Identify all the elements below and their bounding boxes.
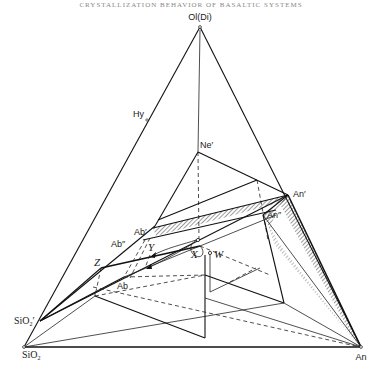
- label-x: X: [190, 248, 199, 260]
- label-sio2: SiO2: [22, 349, 41, 361]
- label-ne-prime: Ne′: [200, 140, 214, 150]
- label-ab-prime: Ab′: [134, 227, 147, 237]
- label-z: Z: [94, 256, 101, 268]
- label-an: An: [355, 352, 366, 362]
- label-ab-double-prime: Ab″: [111, 239, 126, 249]
- label-hy: Hy: [133, 109, 144, 119]
- label-ol-di: Ol(Di): [188, 12, 212, 22]
- outer-triangle: [24, 27, 361, 347]
- label-an-double-prime: An″: [267, 210, 282, 220]
- labels: Ol(Di) Hy Ne′ An′ An″ Ab′ Ab″ Z Y X W Ab…: [14, 12, 367, 362]
- phase-diagram: CRYSTALLIZATION BEHAVIOR OF BASALTIC SYS…: [0, 0, 382, 366]
- label-ab: Ab: [117, 281, 128, 291]
- running-header: CRYSTALLIZATION BEHAVIOR OF BASALTIC SYS…: [79, 1, 302, 9]
- label-w: W: [214, 248, 224, 260]
- label-sio2-prime: SiO2′: [14, 315, 35, 327]
- dashed-lines: [93, 238, 360, 347]
- crystallization-path-arrows: [146, 238, 212, 269]
- label-an-prime: An′: [293, 189, 306, 199]
- vertex-markers: [23, 26, 363, 349]
- label-y: Y: [148, 241, 156, 253]
